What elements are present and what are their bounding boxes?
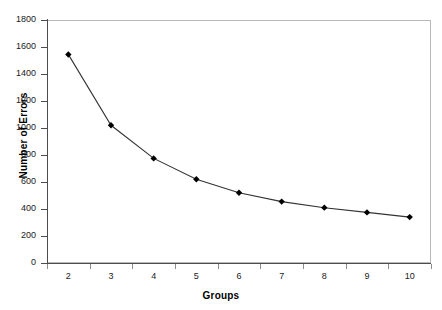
y-axis-title: Number of Errors (18, 61, 29, 211)
y-axis-tick (41, 155, 47, 156)
y-axis-tick-label: 0 (31, 258, 36, 267)
x-axis-tick-label: 2 (53, 271, 83, 281)
y-axis-tick (41, 20, 47, 21)
x-axis-tick (132, 264, 133, 269)
x-axis-tick-label: 10 (395, 271, 425, 281)
plot-area (47, 20, 431, 263)
x-axis-tick-label: 3 (96, 271, 126, 281)
x-axis-tick (90, 264, 91, 269)
y-axis-tick-label: 1800 (16, 15, 36, 24)
y-axis-tick (41, 128, 47, 129)
x-axis-tick (388, 264, 389, 269)
x-axis-tick-label: 9 (352, 271, 382, 281)
x-axis-tick-label: 7 (267, 271, 297, 281)
x-axis-tick (260, 264, 261, 269)
x-axis-tick (218, 264, 219, 269)
y-axis-tick (41, 209, 47, 210)
chart-container: 020040060080010001200140016001800 234567… (0, 0, 442, 310)
y-axis-tick-label: 1600 (16, 42, 36, 51)
x-axis-tick (303, 264, 304, 269)
x-axis-tick (346, 264, 347, 269)
x-axis-tick-label: 5 (181, 271, 211, 281)
y-axis-tick-label: 200 (21, 231, 36, 240)
x-axis-tick-label: 8 (309, 271, 339, 281)
x-axis-line (47, 263, 431, 264)
y-axis-tick (41, 74, 47, 75)
y-axis-tick (41, 101, 47, 102)
y-axis-tick (41, 47, 47, 48)
x-axis-title: Groups (0, 290, 442, 301)
x-axis-tick-label: 6 (224, 271, 254, 281)
x-axis-tick (431, 264, 432, 269)
y-axis-line (47, 19, 48, 264)
y-axis-tick (41, 182, 47, 183)
x-axis-tick (47, 264, 48, 269)
x-axis-tick (175, 264, 176, 269)
y-axis-tick (41, 236, 47, 237)
x-axis-tick-label: 4 (139, 271, 169, 281)
